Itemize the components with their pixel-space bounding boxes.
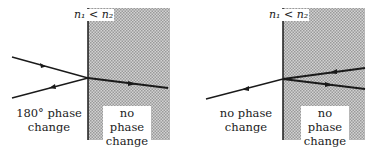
- index-label: n₁ < n₂: [73, 9, 114, 21]
- transmission-caption: no phase change: [103, 106, 151, 148]
- transmission-caption: no phase change: [218, 106, 274, 134]
- reflection-caption: 180° phase change: [14, 106, 84, 134]
- index-label: n₁ < n₂: [268, 9, 309, 21]
- arrow-icon: [242, 86, 249, 91]
- reflection-caption: no phase change: [301, 106, 349, 148]
- incident-ray: [12, 57, 88, 78]
